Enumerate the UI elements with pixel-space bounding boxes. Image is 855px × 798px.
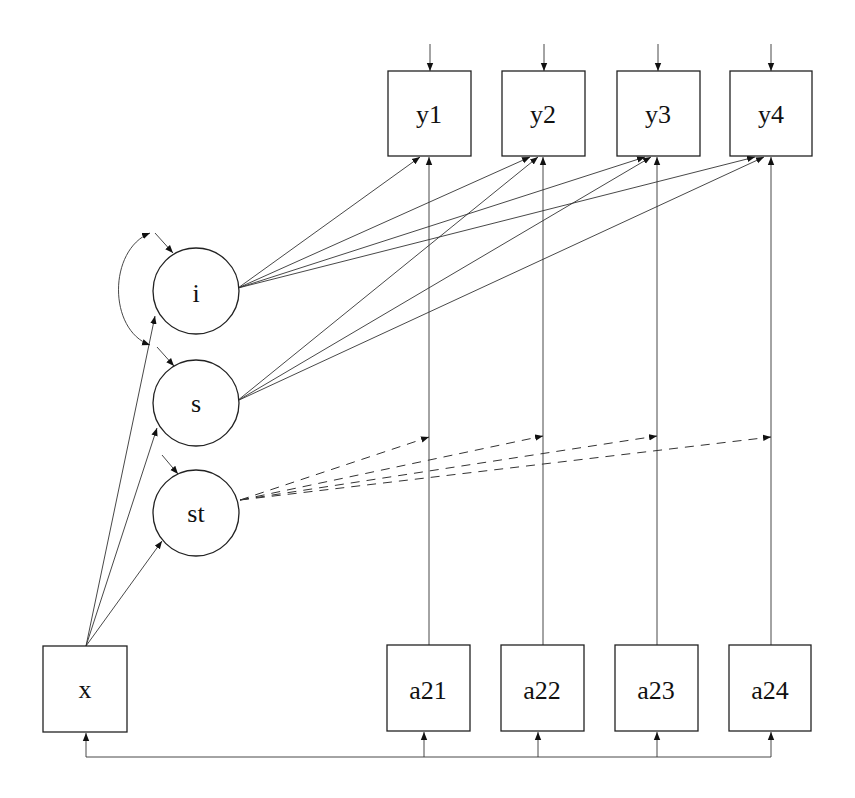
s-loadings	[237, 157, 764, 401]
edge-i-y3	[238, 157, 645, 288]
short-arrow-to-s	[157, 347, 174, 366]
node-label-y1: y1	[416, 100, 442, 129]
x-paths	[86, 316, 162, 646]
residual-arrows	[430, 44, 771, 71]
node-a23: a23	[615, 645, 698, 731]
node-y4: y4	[730, 71, 812, 156]
short-arrow-to-i	[155, 233, 173, 253]
edge-i-y2	[238, 157, 530, 288]
node-a21: a21	[387, 645, 470, 731]
node-y1: y1	[388, 71, 471, 156]
node-y2: y2	[502, 71, 585, 156]
node-label-s: s	[191, 389, 201, 418]
node-a24: a24	[729, 645, 811, 731]
edge-i-y4	[238, 157, 755, 288]
st-moderation-paths	[240, 436, 771, 500]
node-label-x: x	[79, 675, 92, 704]
edge-x-s	[86, 428, 157, 646]
edge-i-y1	[238, 157, 420, 288]
node-label-y2: y2	[530, 100, 556, 129]
edge-st-a21y1	[240, 437, 429, 500]
short-arrow-to-st	[162, 455, 178, 474]
node-label-a24: a24	[751, 676, 789, 705]
edge-st-a23y3	[240, 436, 657, 500]
node-s: s	[153, 360, 239, 446]
covariance-curve	[119, 233, 151, 345]
edge-st-a22y2	[240, 436, 543, 500]
node-label-y3: y3	[645, 100, 671, 129]
edge-x-i	[86, 316, 155, 646]
edge-s-y3	[237, 157, 651, 401]
a-to-y-paths	[429, 157, 771, 645]
bottom-bus	[86, 732, 771, 757]
node-label-a21: a21	[409, 676, 447, 705]
node-label-i: i	[192, 279, 199, 308]
i-loadings	[238, 157, 755, 288]
node-x: x	[43, 646, 127, 732]
path-diagram: y1 y2 y3 y4 i s st x a21 a22 a23	[0, 0, 855, 798]
node-label-y4: y4	[758, 100, 784, 129]
node-a22: a22	[501, 645, 584, 731]
edge-s-y4	[237, 157, 764, 401]
node-label-a22: a22	[523, 676, 561, 705]
node-i: i	[153, 248, 239, 334]
node-st: st	[153, 470, 239, 556]
edge-st-a24y4	[240, 437, 771, 500]
node-label-st: st	[187, 499, 205, 528]
edge-s-y2	[237, 157, 538, 401]
node-label-a23: a23	[637, 676, 675, 705]
node-y3: y3	[617, 71, 700, 156]
